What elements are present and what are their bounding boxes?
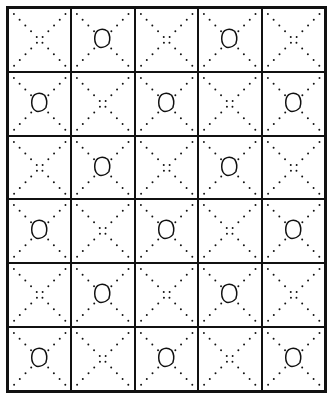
circle-icon	[285, 348, 300, 366]
grid-cell	[262, 72, 325, 136]
grid-cell	[262, 199, 325, 263]
circle-icon	[32, 93, 47, 111]
grid-cell	[262, 263, 325, 327]
grid-cell	[198, 263, 261, 327]
grid-cell	[262, 136, 325, 200]
circle-icon	[95, 29, 110, 47]
circle-icon	[32, 348, 47, 366]
dotted-x-icon	[263, 328, 324, 390]
dotted-x-icon	[9, 200, 70, 262]
dotted-x-icon	[72, 328, 133, 390]
dotted-x-icon	[9, 137, 70, 199]
dotted-x-icon	[136, 264, 197, 326]
dotted-x-icon	[9, 73, 70, 135]
dotted-x-icon	[136, 9, 197, 71]
circle-icon	[222, 29, 237, 47]
grid-cell	[198, 199, 261, 263]
grid-cell	[135, 72, 198, 136]
dotted-x-icon	[136, 328, 197, 390]
circle-icon	[285, 93, 300, 111]
dotted-x-icon	[199, 328, 260, 390]
dotted-x-icon	[263, 137, 324, 199]
grid-cell	[71, 327, 134, 391]
grid-cell	[8, 327, 71, 391]
grid-cell	[135, 136, 198, 200]
circle-icon	[285, 221, 300, 239]
dotted-x-icon	[199, 137, 260, 199]
circle-icon	[159, 348, 174, 366]
grid-cell	[135, 8, 198, 72]
circle-icon	[222, 157, 237, 175]
grid-cell	[198, 327, 261, 391]
dotted-x-icon	[136, 137, 197, 199]
grid-cell	[8, 263, 71, 327]
dotted-x-icon	[263, 264, 324, 326]
grid-cell	[71, 136, 134, 200]
dotted-x-icon	[136, 200, 197, 262]
grid-cell	[198, 136, 261, 200]
circle-icon	[95, 157, 110, 175]
grid-cell	[8, 199, 71, 263]
dotted-x-icon	[263, 73, 324, 135]
grid-cell	[135, 263, 198, 327]
grid-cell	[8, 72, 71, 136]
grid-cell	[71, 199, 134, 263]
grid	[6, 6, 327, 393]
grid-cell	[71, 72, 134, 136]
dotted-x-icon	[72, 200, 133, 262]
grid-cell	[71, 8, 134, 72]
grid-cell	[198, 8, 261, 72]
grid-cell	[262, 8, 325, 72]
dotted-x-icon	[72, 9, 133, 71]
dotted-x-icon	[136, 73, 197, 135]
dotted-x-icon	[199, 264, 260, 326]
grid-cell	[8, 136, 71, 200]
grid-cell	[8, 8, 71, 72]
grid-cell	[135, 327, 198, 391]
grid-cell	[262, 327, 325, 391]
grid-cell	[71, 263, 134, 327]
grid-cell	[198, 72, 261, 136]
dotted-x-icon	[199, 200, 260, 262]
dotted-x-icon	[9, 328, 70, 390]
dotted-x-icon	[9, 264, 70, 326]
dotted-x-icon	[263, 200, 324, 262]
grid-cell	[135, 199, 198, 263]
circle-icon	[32, 221, 47, 239]
dotted-x-icon	[199, 73, 260, 135]
dotted-x-icon	[9, 9, 70, 71]
circle-icon	[95, 285, 110, 303]
dotted-x-icon	[263, 9, 324, 71]
circle-icon	[159, 221, 174, 239]
dotted-x-icon	[72, 73, 133, 135]
dotted-x-icon	[199, 9, 260, 71]
dotted-x-icon	[72, 264, 133, 326]
circle-icon	[222, 285, 237, 303]
circle-icon	[159, 93, 174, 111]
dotted-x-icon	[72, 137, 133, 199]
